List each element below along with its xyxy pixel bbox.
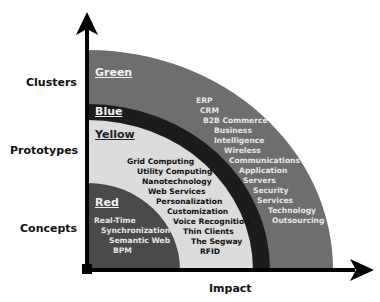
yellow-item: Voice Recognition — [173, 217, 250, 227]
maturity-diagram: Clusters Prototypes Concepts Impact Gree… — [0, 0, 380, 302]
zone-title-green: Green — [95, 66, 132, 79]
green-item: Services — [257, 196, 293, 206]
yellow-item: Personalization — [156, 197, 222, 207]
green-item: Application — [239, 166, 287, 176]
zone-title-red: Red — [95, 196, 119, 209]
green-item: Outsourcing — [272, 216, 324, 226]
green-item: Communications — [229, 156, 300, 166]
green-item: Wireless — [224, 146, 261, 156]
x-label-impact: Impact — [209, 282, 252, 295]
green-item: ERP — [196, 96, 213, 106]
y-label-prototypes: Prototypes — [10, 144, 78, 157]
green-item: Servers — [243, 176, 276, 186]
yellow-item: Nanotechnology — [142, 177, 212, 187]
yellow-item: Thin Clients — [183, 227, 234, 237]
zone-title-blue: Blue — [95, 105, 122, 118]
red-item: Semantic Web — [109, 236, 170, 246]
yellow-item: RFID — [200, 247, 220, 257]
green-item: Business — [214, 126, 252, 136]
green-item: Technology — [268, 206, 316, 216]
green-item: CRM — [200, 106, 219, 116]
y-label-concepts: Concepts — [20, 222, 77, 235]
red-item: Real-Time — [94, 216, 136, 226]
y-label-clusters: Clusters — [26, 76, 77, 89]
red-item: BPM — [113, 246, 132, 256]
yellow-item: Utility Computing — [137, 167, 212, 177]
origin-corner — [82, 264, 92, 274]
yellow-item: Web Services — [148, 187, 205, 197]
yellow-item: Customization — [167, 207, 228, 217]
yellow-item: Grid Computing — [127, 157, 194, 167]
green-item: B2B Commerce — [203, 116, 268, 126]
zone-title-yellow: Yellow — [95, 128, 135, 141]
green-item: Security — [253, 186, 288, 196]
green-item: Intelligence — [214, 136, 264, 146]
red-item: Synchronization — [101, 226, 170, 236]
yellow-item: The Segway — [191, 237, 242, 247]
